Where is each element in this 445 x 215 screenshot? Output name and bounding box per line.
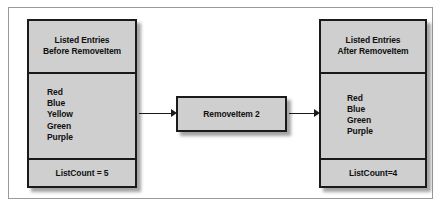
list-item: Yellow (47, 109, 73, 120)
process-label: RemoveItem 2 (203, 109, 259, 119)
after-entry-list: Red Blue Green Purple (347, 93, 373, 138)
before-panel-title-line-1: Listed Entries (55, 35, 110, 47)
removeitem-process-box: RemoveItem 2 (176, 96, 287, 132)
before-panel-title-line-2: Before RemoveItem (43, 46, 121, 58)
after-panel-footer: ListCount=4 (321, 158, 425, 186)
list-item: Purple (347, 126, 373, 137)
after-panel-body: Red Blue Green Purple (321, 74, 425, 158)
list-item: Blue (47, 98, 73, 109)
list-item: Purple (47, 132, 73, 143)
after-panel-header: Listed Entries After RemoveItem (321, 21, 425, 74)
arrow-process-to-after-icon (289, 109, 320, 118)
after-listcount-label: ListCount=4 (349, 168, 397, 178)
before-panel-body: Red Blue Yellow Green Purple (29, 74, 135, 158)
before-removeitem-panel: Listed Entries Before RemoveItem Red Blu… (27, 19, 137, 188)
list-item: Blue (347, 104, 373, 115)
after-removeitem-panel: Listed Entries After RemoveItem Red Blue… (319, 19, 427, 188)
arrow-before-to-process-icon (139, 109, 177, 118)
after-panel-title-line-2: After RemoveItem (337, 46, 408, 58)
arrow-shaft (139, 113, 171, 114)
after-panel-title-line-1: Listed Entries (346, 35, 401, 47)
list-item: Red (347, 93, 373, 104)
diagram-frame: Listed Entries Before RemoveItem Red Blu… (8, 7, 433, 199)
list-item: Green (47, 121, 73, 132)
before-listcount-label: ListCount = 5 (56, 168, 109, 178)
figure-caption (14, 204, 414, 215)
list-item: Green (347, 115, 373, 126)
list-item: Red (47, 87, 73, 98)
arrow-shaft (289, 113, 314, 114)
before-panel-footer: ListCount = 5 (29, 158, 135, 186)
before-entry-list: Red Blue Yellow Green Purple (47, 87, 73, 143)
before-panel-header: Listed Entries Before RemoveItem (29, 21, 135, 74)
